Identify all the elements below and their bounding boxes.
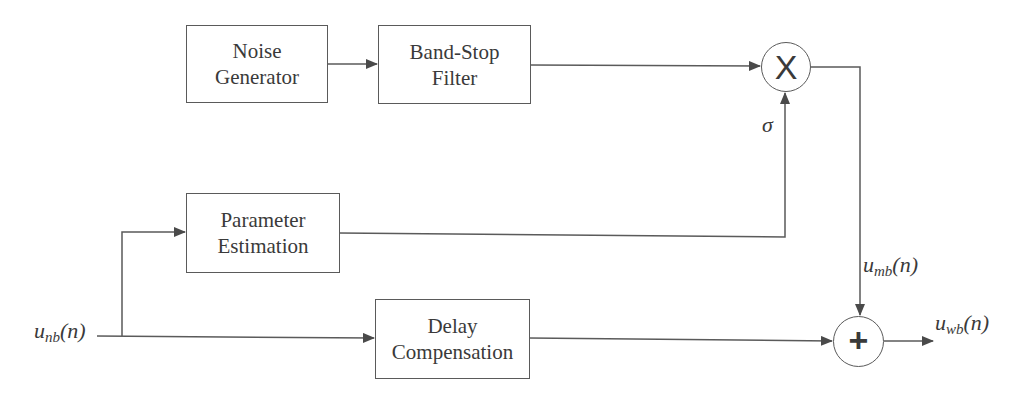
block-label: Estimation: [218, 233, 309, 259]
wire-input-to-param: [122, 232, 185, 336]
multiply-icon: X: [775, 50, 798, 84]
signal-subscript: nb: [45, 329, 60, 345]
sigma-symbol: σ: [762, 112, 773, 137]
band-stop-filter-block: Band-Stop Filter: [378, 25, 531, 104]
output-signal-label: uwb(n): [935, 310, 989, 338]
noise-generator-block: Noise Generator: [186, 25, 328, 103]
parameter-estimation-block: Parameter Estimation: [186, 193, 340, 273]
block-label: Noise: [233, 38, 282, 64]
wire-param-to-multiplier: [339, 93, 785, 237]
multiplier-node: X: [761, 42, 811, 92]
sigma-label: σ: [762, 112, 773, 138]
wire-delay-to-summer: [529, 338, 832, 341]
signal-subscript: wb: [946, 321, 964, 337]
wire-multiplier-to-summer: [811, 67, 860, 315]
block-label: Generator: [215, 64, 299, 90]
summing-junction-node: +: [833, 316, 884, 367]
input-signal-label: unb(n): [34, 318, 86, 346]
signal-arg: (n): [60, 318, 86, 343]
signal-base: u: [34, 318, 45, 343]
signal-arg: (n): [892, 252, 918, 277]
block-label: Filter: [432, 65, 478, 91]
plus-icon: +: [849, 323, 869, 357]
signal-subscript: mb: [874, 263, 892, 279]
block-label: Delay: [427, 313, 477, 339]
block-label: Band-Stop: [410, 39, 500, 65]
signal-base: u: [863, 252, 874, 277]
wire-input-to-delay: [97, 336, 374, 338]
wire-filter-to-multiplier: [530, 65, 760, 66]
signal-base: u: [935, 310, 946, 335]
block-label: Compensation: [392, 339, 513, 365]
block-label: Parameter: [220, 207, 305, 233]
modulated-signal-label: umb(n): [863, 252, 918, 280]
signal-arg: (n): [964, 310, 990, 335]
delay-compensation-block: Delay Compensation: [375, 299, 530, 379]
